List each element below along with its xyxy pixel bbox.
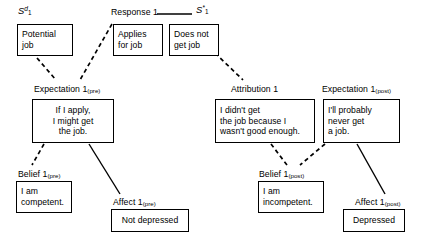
label-subscript: (post) <box>385 200 401 207</box>
label-stimulus-star: S*1 <box>196 5 209 15</box>
label-text: Affect 1 <box>113 197 143 207</box>
box-depressed: Depressed <box>343 209 405 232</box>
box-potential-job: Potential job <box>17 24 73 56</box>
label-subscript: (pre) <box>143 200 156 207</box>
label-text: Response 1 <box>111 7 158 17</box>
label-text: Expectation 1 <box>322 84 375 94</box>
label-text: Attribution 1 <box>231 84 278 94</box>
label-subscript: (pre) <box>87 87 100 94</box>
connector-response-to-expectation-pre <box>80 24 112 80</box>
label-belief-1-post: Belief 1(post) <box>259 169 304 179</box>
box-if-i-apply: If I apply, I might get the job. <box>32 99 114 143</box>
label-subscript: 1 <box>205 8 209 15</box>
box-not-depressed: Not depressed <box>111 209 189 232</box>
label-text: Belief 1 <box>18 169 47 179</box>
box-i-am-incompetent: I am incompetent. <box>258 181 324 213</box>
label-response-1: Response 1 <box>111 7 158 17</box>
diagram-canvas: Potential jobApplies for jobDoes not get… <box>0 0 431 249</box>
connector-expectation-pre-to-belief-pre <box>32 144 44 165</box>
label-expectation-1-post: Expectation 1(post) <box>322 84 391 94</box>
label-text: Expectation 1 <box>34 84 87 94</box>
connector-expectation-pre-to-affect-pre <box>89 144 120 194</box>
label-subscript: (post) <box>375 87 391 94</box>
connector-does-not-get-job-to-attribution <box>215 53 243 80</box>
label-subscript: (pre) <box>47 172 60 179</box>
box-applies-for-job: Applies for job <box>113 24 163 56</box>
box-ill-probably-never: I'll probably never get a job. <box>323 99 400 143</box>
label-subscript: (post) <box>288 172 304 179</box>
label-stimulus-discriminative: Sd1 <box>18 6 32 16</box>
box-does-not-get-job: Does not get job <box>169 24 219 56</box>
label-text: Belief 1 <box>259 169 288 179</box>
label-belief-1-pre: Belief 1(pre) <box>18 169 61 179</box>
box-i-didnt-get-the-job: I didn't get the job because I wasn't go… <box>215 99 315 143</box>
connector-potential-job-to-expectation-pre <box>37 58 56 80</box>
label-subscript: 1 <box>28 9 32 16</box>
label-expectation-1-pre: Expectation 1(pre) <box>34 84 100 94</box>
label-affect-1-post: Affect 1(post) <box>355 197 401 207</box>
connector-expectation-post-to-affect-post <box>357 144 385 194</box>
connector-expectation-post-to-belief-post <box>300 144 325 165</box>
label-text: Affect 1 <box>355 197 385 207</box>
box-i-am-competent: I am competent. <box>16 181 72 213</box>
label-attribution-1: Attribution 1 <box>231 84 278 94</box>
connector-attribution-to-belief-post <box>271 144 287 165</box>
label-affect-1-pre: Affect 1(pre) <box>113 197 156 207</box>
